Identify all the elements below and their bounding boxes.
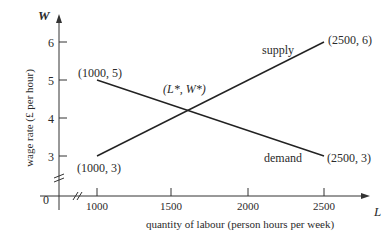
x-tick-1500: 1500 [160,200,183,212]
y-tick-3: 3 [48,150,54,164]
y-tick-6: 6 [48,36,54,50]
supply-label: supply [262,43,294,57]
x-axis-symbol: L [373,204,381,219]
y-axis [54,14,67,210]
demand-line [97,80,324,156]
y-axis-arrow-icon [56,14,62,23]
y-axis-symbol: W [38,8,51,23]
chart: W L 0 6 5 4 3 1000 1500 2000 2500 quanti… [0,0,391,236]
supply-line [97,42,324,156]
x-tick-2000: 2000 [237,200,260,212]
x-axis-title: quantity of labour (person hours per wee… [146,218,335,231]
point-label-1000-5: (1000, 5) [78,66,122,80]
point-label-2500-6: (2500, 6) [328,33,372,47]
equilibrium-label: (L*, W*) [163,82,206,96]
origin-label: 0 [43,193,49,207]
y-axis-title: wage rate (£ per hour) [23,69,36,167]
x-axis-arrow-icon [361,193,370,199]
point-label-1000-3: (1000, 3) [77,161,121,175]
y-tick-4: 4 [48,112,54,126]
y-tick-5: 5 [48,74,54,88]
x-tick-2500: 2500 [313,200,336,212]
x-tick-1000: 1000 [86,200,109,212]
demand-label: demand [264,151,302,165]
point-label-2500-3: (2500, 3) [327,151,371,165]
x-axis [40,188,370,200]
